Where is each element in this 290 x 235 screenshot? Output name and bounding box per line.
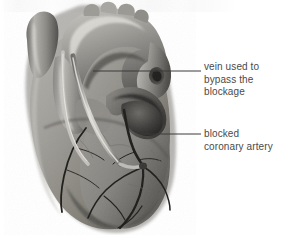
surface-grain bbox=[20, 4, 180, 234]
coronary-bypass-figure: vein used to bypass the blockage blocked… bbox=[0, 0, 290, 235]
heart-anatomy-group bbox=[20, 2, 180, 234]
blocked-coronary-artery-label: blocked coronary artery bbox=[204, 128, 273, 153]
label-line: vein used to bbox=[204, 61, 259, 74]
heart-illustration bbox=[0, 0, 290, 235]
label-line: blockage bbox=[204, 86, 259, 99]
vein-used-to-bypass-the-blockage-label: vein used to bypass the blockage bbox=[204, 61, 259, 99]
label-line: blocked bbox=[204, 128, 273, 141]
label-line: bypass the bbox=[204, 74, 259, 87]
label-line: coronary artery bbox=[204, 141, 273, 154]
